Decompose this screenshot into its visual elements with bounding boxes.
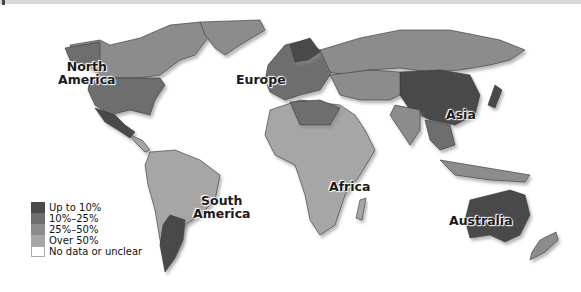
label-line: Europe (236, 73, 286, 86)
label-australia: Australia (449, 214, 513, 227)
label-south-america: South America (193, 194, 250, 220)
region-madagascar (356, 198, 366, 220)
legend-item: No data or unclear (31, 246, 142, 257)
label-line: America (193, 207, 250, 220)
legend-item: 25%–50% (31, 224, 142, 235)
legend-label: 25%–50% (49, 224, 98, 235)
label-line: Australia (449, 214, 513, 227)
legend-swatch (31, 224, 45, 235)
legend-item: Up to 10% (31, 202, 142, 213)
legend-item: Over 50% (31, 235, 142, 246)
legend-item: 10%–25% (31, 213, 142, 224)
legend-label: Over 50% (49, 235, 98, 246)
legend-swatch (31, 213, 45, 224)
region-central-asia (330, 70, 410, 100)
label-europe: Europe (236, 73, 286, 86)
label-africa: Africa (329, 180, 370, 193)
region-argentina (160, 215, 185, 272)
label-line: Asia (446, 108, 476, 121)
region-indonesia (440, 160, 530, 182)
legend-swatch (31, 246, 45, 257)
label-line: America (58, 73, 115, 86)
legend-swatch (31, 202, 45, 213)
region-new-zealand (530, 232, 558, 260)
region-japan (488, 85, 502, 108)
region-india (390, 105, 420, 145)
region-central-america (130, 135, 150, 152)
legend-label: No data or unclear (49, 246, 142, 257)
label-line: Africa (329, 180, 370, 193)
region-southeast-asia (425, 120, 455, 150)
label-north-america: North America (58, 60, 115, 86)
legend-swatch (31, 235, 45, 246)
region-russia (320, 30, 525, 75)
legend-label: Up to 10% (49, 202, 101, 213)
map-legend: Up to 10% 10%–25% 25%–50% Over 50% No da… (31, 202, 142, 257)
label-asia: Asia (446, 108, 476, 121)
region-greenland (200, 20, 265, 55)
legend-label: 10%–25% (49, 213, 98, 224)
